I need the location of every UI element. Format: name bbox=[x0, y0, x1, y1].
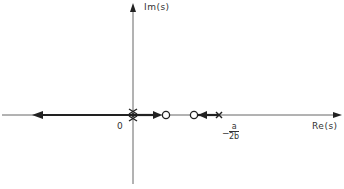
real-axis-arrow-icon bbox=[333, 112, 342, 118]
origin-label: 0 bbox=[117, 121, 123, 131]
root-locus-diagram bbox=[0, 0, 344, 189]
real-axis-label: Re(s) bbox=[312, 121, 338, 131]
imaginary-axis-label: Im(s) bbox=[144, 2, 170, 12]
fraction-denominator: 2b bbox=[229, 132, 239, 141]
pole-fraction-label: a 2b bbox=[229, 122, 239, 141]
branch-left-arrow-icon bbox=[32, 111, 43, 119]
imaginary-axis-arrow-icon bbox=[130, 3, 136, 12]
zero-2-icon bbox=[190, 111, 197, 118]
zero-1-icon bbox=[162, 111, 169, 118]
branch-right-arrow-icon bbox=[153, 111, 162, 119]
fraction-numerator: a bbox=[229, 122, 239, 132]
branch-pole-arrow-icon bbox=[198, 111, 207, 119]
